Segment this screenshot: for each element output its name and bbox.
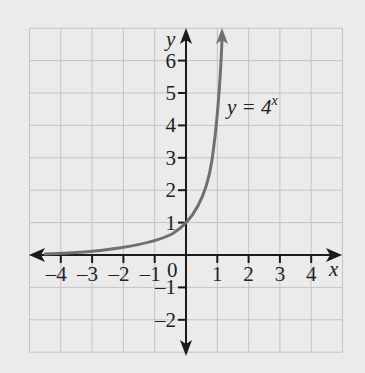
y-tick-label: –2 [154,308,176,332]
function-label: y = 4x [225,93,279,119]
x-tick-label: –3 [76,262,98,286]
y-tick-label: 6 [166,49,177,73]
y-tick-label: 3 [166,146,177,170]
y-tick-label: 4 [166,113,177,137]
x-tick-label: 1 [212,262,223,286]
axes [29,28,342,356]
x-tick-label: –2 [107,262,129,286]
curve-y-4-pow-x [44,40,222,254]
exponential-chart: –4–3–2–11234654321–1–2 y x 0 y = 4x [0,0,365,373]
y-tick-label: 5 [166,81,177,105]
x-axis-label: x [328,257,339,281]
origin-label: 0 [167,258,178,282]
x-tick-label: 3 [275,262,286,286]
y-axis-label: y [164,27,176,51]
x-tick-label: –4 [45,262,68,286]
y-tick-label: 2 [166,178,177,202]
x-tick-label: 4 [306,262,317,286]
x-tick-label: 2 [243,262,254,286]
